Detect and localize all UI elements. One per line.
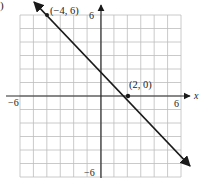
x-min-label: −6 — [8, 97, 19, 108]
point-b-marker — [126, 94, 130, 98]
x-max-label: 6 — [174, 98, 179, 109]
x-axis-label: x — [193, 90, 199, 101]
y-min-label: −6 — [84, 167, 95, 178]
corner-mark: ) — [0, 0, 4, 12]
coordinate-plane: ) (−4, 6) 6 (2, 0) −6 6 x −6 — [0, 0, 200, 182]
graph-line — [34, 2, 190, 166]
point-a-label: (−4, 6) — [50, 5, 79, 17]
y-max-label: 6 — [89, 10, 94, 21]
point-b-label: (2, 0) — [129, 79, 152, 91]
point-a-marker — [45, 13, 49, 17]
